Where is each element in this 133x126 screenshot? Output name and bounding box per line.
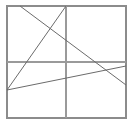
line-figure-container xyxy=(0,0,133,126)
line-figure-svg xyxy=(0,0,133,126)
